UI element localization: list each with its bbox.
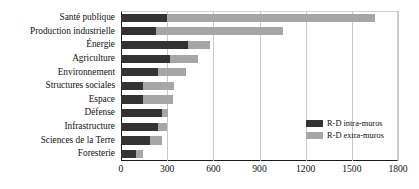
- legend-swatch: [306, 120, 323, 127]
- x-axis-tick-label: 300: [160, 163, 174, 174]
- x-axis-tick-label: 1200: [296, 163, 315, 174]
- y-axis-label: Foresterie: [78, 147, 115, 161]
- legend-entry: R-D extra-muros: [306, 130, 384, 141]
- bar-segment-intra-muros: [121, 68, 158, 76]
- bar-segment-intra-muros: [121, 41, 188, 49]
- bar-row: [121, 11, 398, 25]
- bar-row: [121, 79, 398, 93]
- x-axis-tick-label: 1800: [388, 163, 407, 174]
- bar-row: [121, 93, 398, 107]
- legend-swatch: [306, 132, 323, 139]
- x-axis-tick-label: 1500: [342, 163, 361, 174]
- chart-legend: R-D intra-murosR-D extra-muros: [304, 116, 386, 144]
- bar-segment-intra-muros: [121, 109, 162, 117]
- gridline: [398, 11, 399, 161]
- bar-row: [121, 52, 398, 66]
- bar-segment-intra-muros: [121, 27, 156, 35]
- bar-segment-intra-muros: [121, 14, 167, 22]
- bar-segment-intra-muros: [121, 95, 143, 103]
- y-axis-label: Sciences de la Terre: [41, 134, 115, 148]
- bar-row: [121, 66, 398, 80]
- legend-label: R-D intra-muros: [327, 119, 383, 128]
- bar-segment-intra-muros: [121, 150, 136, 158]
- bar-segment-intra-muros: [121, 123, 158, 131]
- bar-segment-intra-muros: [121, 136, 150, 144]
- bar-row: [121, 25, 398, 39]
- bar-chart: Santé publiqueProduction industrielleÉne…: [0, 0, 419, 189]
- y-axis-label: Production industrielle: [30, 25, 115, 39]
- bar-row: [121, 38, 398, 52]
- bar-segment-intra-muros: [121, 82, 143, 90]
- y-axis-label: Infrastructure: [64, 120, 115, 134]
- x-axis-tick-labels: 0300600900120015001800: [0, 163, 419, 179]
- x-axis-tick-label: 600: [206, 163, 220, 174]
- y-axis-label: Défense: [85, 106, 115, 120]
- y-axis-label: Santé publique: [59, 11, 115, 25]
- legend-label: R-D extra-muros: [327, 131, 384, 140]
- y-axis-label: Agriculture: [72, 52, 115, 66]
- y-axis-label: Espace: [89, 93, 115, 107]
- y-axis-label: Structures sociales: [46, 79, 115, 93]
- y-axis-label: Environnement: [58, 66, 115, 80]
- y-axis-category-labels: Santé publiqueProduction industrielleÉne…: [0, 11, 118, 161]
- legend-entry: R-D intra-muros: [306, 118, 384, 129]
- bar-row: [121, 147, 398, 161]
- y-axis-label: Énergie: [86, 38, 115, 52]
- x-axis-tick-label: 900: [252, 163, 266, 174]
- bar-segment-intra-muros: [121, 55, 170, 63]
- x-axis-tick-label: 0: [119, 163, 124, 174]
